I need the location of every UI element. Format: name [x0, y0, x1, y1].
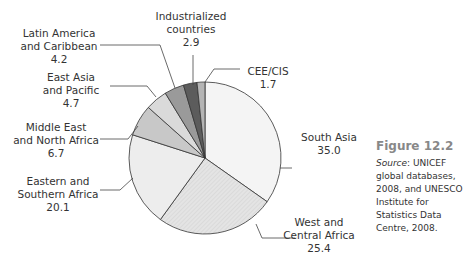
source-text: : UNICEF global databases, 2008, and UNE…: [376, 158, 463, 233]
slice-label: South Asia35.0: [269, 131, 389, 157]
slice-label: Industrializedcountries2.9: [131, 10, 251, 49]
slice-label: CEE/CIS1.7: [208, 65, 328, 91]
figure-source: Source: UNICEF global databases, 2008, a…: [376, 157, 463, 235]
pie-slices: [129, 82, 281, 234]
source-label: Source: [376, 158, 407, 168]
slice-label: Eastern andSouthern Africa20.1: [0, 175, 118, 214]
slice-label: East Asiaand Pacific4.7: [11, 71, 131, 110]
slice-label: West andCentral Africa25.4: [259, 216, 379, 255]
figure-title: Figure 12.2: [376, 139, 453, 153]
slice-label: Middle Eastand North Africa6.7: [0, 121, 116, 160]
slice-label: Latin Americaand Caribbean4.2: [0, 27, 119, 66]
